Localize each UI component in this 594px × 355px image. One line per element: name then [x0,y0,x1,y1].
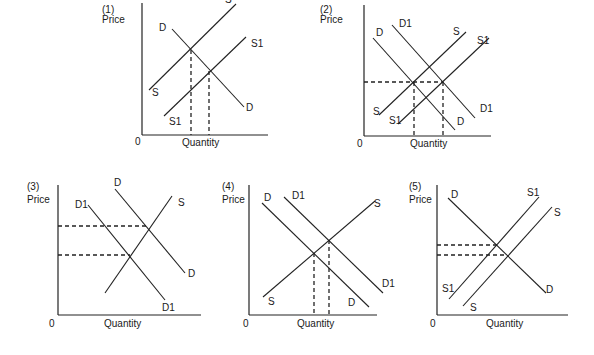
curve-d1 [284,197,383,293]
curve-label: D [159,22,166,33]
y-axis-label: Price [320,14,343,25]
curve-s1 [164,37,246,116]
curve-d [448,198,546,293]
curve-s [379,32,466,115]
curve-label: S [178,197,185,208]
curve-s [149,4,236,90]
curve-label: S [152,87,159,98]
origin-label: 0 [243,318,249,329]
y-axis-label: Price [102,14,125,25]
curve-label: S [470,302,477,313]
origin-label: 0 [135,136,141,147]
graph-3: DDD1D1S(3)Price0Quantity [27,177,201,329]
curve-label: D [457,116,464,127]
y-axis-label: Price [409,194,432,205]
curve-d [115,189,185,273]
graph-5: DDS1S1SS(5)Price0Quantity [409,181,568,329]
graph-number: (4) [222,181,234,192]
curve-label: S1 [442,283,455,294]
curve-d1 [392,25,475,118]
curve-label: S [453,26,460,37]
graph-2: DDD1D1SSS1S1(2)Price0Quantity [320,4,493,149]
x-axis-label: Quantity [410,138,447,149]
y-axis-label: Price [222,194,245,205]
y-axis-label: Price [27,194,50,205]
curve-label: D1 [382,278,395,289]
curve-label: S [268,296,275,307]
x-axis-label: Quantity [104,318,141,329]
curve-d [262,203,369,307]
curve-label: S1 [169,116,182,127]
curve-label: D1 [75,199,88,210]
supply-demand-diagrams: SSDDS1S1(1)Price0QuantityDDD1D1SSS1S1(2)… [0,0,594,355]
curve-label: S1 [389,115,402,126]
x-axis-label: Quantity [486,318,523,329]
curve-d1 [88,205,165,300]
curve-label: S [374,198,381,209]
curve-d [172,29,244,107]
curve-s [463,207,552,306]
curve-label: S1 [527,187,540,198]
curve-label: S1 [477,35,490,46]
graph-number: (5) [409,181,421,192]
curve-label: D [264,192,271,203]
curve-label: D1 [480,103,493,114]
curve-label: D [114,177,121,188]
curve-label: S [225,0,232,5]
graph-number: (3) [27,181,39,192]
curve-label: D1 [162,302,175,313]
x-axis-label: Quantity [182,137,219,148]
origin-label: 0 [49,318,55,329]
curve-s [263,201,375,297]
origin-label: 0 [357,138,363,149]
curve-label: D [348,297,355,308]
x-axis-label: Quantity [297,318,334,329]
curve-label: D [546,284,553,295]
curve-label: D1 [292,190,305,201]
curve-label: S [373,106,380,117]
curve-label: S [554,207,561,218]
curve-label: D [451,189,458,200]
graph-1: SSDDS1S1(1)Price0Quantity [102,0,268,148]
curve-label: D [376,27,383,38]
curve-label: D [246,102,253,113]
curve-label: S1 [251,38,264,49]
graph-4: DDD1D1SS(4)Price0Quantity [222,181,395,329]
origin-label: 0 [430,318,436,329]
curve-label: D [188,268,195,279]
curve-label: D1 [399,18,412,29]
